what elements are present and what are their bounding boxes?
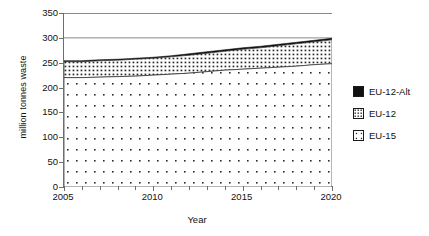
chart-legend: EU-12-AltEU-12EU-15 — [353, 82, 429, 148]
x-tick-mark-minor — [296, 186, 297, 190]
legend-label: EU-12-Alt — [369, 86, 410, 97]
legend-item[interactable]: EU-15 — [353, 126, 429, 144]
y-tick-mark — [59, 13, 64, 14]
y-tick-label: 200 — [30, 83, 58, 93]
y-tick-mark — [59, 88, 64, 89]
x-tick-mark-minor — [171, 186, 172, 190]
legend-swatch-sparse-dot-icon — [353, 130, 364, 141]
y-tick-mark — [59, 63, 64, 64]
y-tick-mark — [59, 38, 64, 39]
y-tick-label: 150 — [30, 107, 58, 117]
legend-swatch-dense-dot-icon — [353, 108, 364, 119]
y-tick-label: 100 — [30, 132, 58, 142]
legend-item[interactable]: EU-12-Alt — [353, 82, 429, 100]
y-tick-label: 250 — [30, 58, 58, 68]
stacked-areas — [64, 38, 332, 187]
x-axis-tick-labels: 2005201020152020 — [0, 192, 429, 206]
legend-label: EU-12 — [369, 108, 396, 119]
y-tick-label: 50 — [30, 157, 58, 167]
x-tick-mark-minor — [278, 186, 279, 190]
chart-figure: million tonnes waste 0501001502002503003… — [0, 0, 429, 236]
y-tick-mark — [59, 112, 64, 113]
x-tick-mark-minor — [118, 186, 119, 190]
x-tick-label: 2015 — [222, 192, 262, 202]
y-tick-mark — [59, 162, 64, 163]
area-eu-15 — [64, 64, 332, 187]
y-tick-label: 300 — [30, 33, 58, 43]
x-tick-mark-minor — [189, 186, 190, 190]
plot-area — [63, 13, 331, 187]
x-tick-mark-minor — [100, 186, 101, 190]
x-tick-mark-minor — [82, 186, 83, 190]
y-tick-label: 350 — [30, 8, 58, 18]
y-tick-mark — [59, 137, 64, 138]
legend-label: EU-15 — [369, 130, 396, 141]
x-tick-mark-minor — [261, 186, 262, 190]
x-axis-label: Year — [63, 214, 331, 225]
gridlines — [64, 14, 332, 38]
y-axis-label: million tonnes waste — [18, 27, 28, 167]
legend-item[interactable]: EU-12 — [353, 104, 429, 122]
x-tick-mark-minor — [135, 186, 136, 190]
x-tick-mark-minor — [314, 186, 315, 190]
legend-swatch-solid-black-icon — [353, 86, 364, 97]
x-tick-label: 2010 — [132, 192, 172, 202]
x-tick-label: 2005 — [43, 192, 83, 202]
x-tick-label: 2020 — [311, 192, 351, 202]
x-tick-mark-minor — [207, 186, 208, 190]
area-chart-svg — [64, 13, 332, 187]
x-tick-mark-minor — [225, 186, 226, 190]
